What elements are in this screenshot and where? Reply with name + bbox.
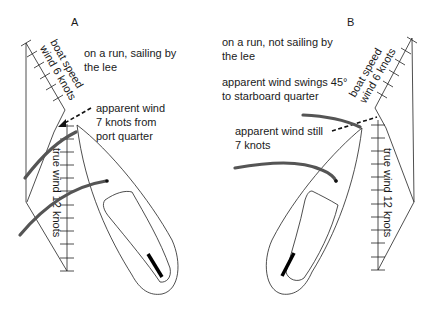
panel-a-boat-speed-label: boat speed wind 6 knots bbox=[37, 36, 89, 102]
panel-a-label: A bbox=[71, 16, 79, 28]
panel-b-apparent-line2: 7 knots bbox=[235, 139, 271, 151]
panel-b-true-wind-label: true wind 12 knots bbox=[382, 148, 394, 238]
panel-b-heading-line2: the lee bbox=[222, 50, 255, 62]
panel-b-boat-speed-label: boat speed wind 6 knots bbox=[346, 40, 398, 106]
svg-text:true wind 12 knots: true wind 12 knots bbox=[51, 148, 63, 238]
panel-a-arrow-head-icon bbox=[58, 119, 66, 127]
panel-b-heading-line1: on a run, not sailing by bbox=[222, 36, 333, 48]
svg-text:true wind 12 knots: true wind 12 knots bbox=[382, 148, 394, 238]
panel-a-apparent-wind-arrow bbox=[63, 108, 91, 124]
panel-a-true-wind-label: true wind 12 knots bbox=[51, 148, 63, 238]
panel-b-swing-line1: apparent wind swings 45° bbox=[222, 76, 347, 88]
panel-b-sail-point bbox=[334, 179, 338, 183]
panel-a-apparent-vector bbox=[54, 110, 65, 132]
panel-a-apparent-line1: apparent wind bbox=[96, 102, 165, 114]
panel-a-sail-point bbox=[105, 179, 109, 183]
panel-b: B on a run, not sailing by the lee appar… bbox=[222, 16, 417, 294]
panel-b-swing-line2: to starboard quarter bbox=[222, 90, 319, 102]
panel-b-label: B bbox=[347, 16, 354, 28]
panel-a-apparent-line2: 7 knots from bbox=[96, 116, 157, 128]
panel-b-vertical-line bbox=[412, 38, 414, 202]
panel-b-apparent-line1: apparent wind still bbox=[235, 125, 323, 137]
panel-a-heading-line1: on a run, sailing by bbox=[84, 47, 177, 59]
panel-b-hull bbox=[266, 128, 362, 294]
panel-a-hull bbox=[77, 125, 178, 294]
panel-a-apparent-line3: port quarter bbox=[96, 130, 153, 142]
panel-a-apparent-line bbox=[27, 132, 54, 202]
panel-a: A on a run, sailing by the lee apparent … bbox=[20, 16, 178, 294]
panel-a-heading-line2: the lee bbox=[84, 61, 117, 73]
sailing-diagram: A on a run, sailing by the lee apparent … bbox=[0, 0, 437, 312]
